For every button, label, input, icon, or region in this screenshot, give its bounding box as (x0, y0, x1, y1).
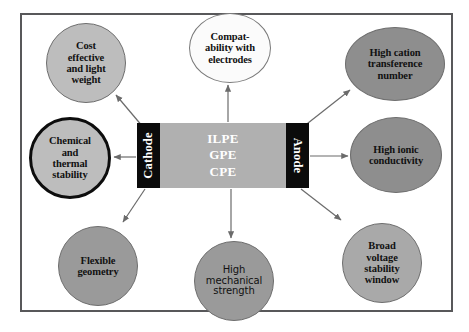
node-broad-voltage[interactable]: Broad voltage stability window (342, 223, 422, 303)
node-mech-strength-line3: strength (202, 286, 266, 297)
cell-block: Cathode ILPE GPE CPE Anode (137, 123, 309, 188)
node-ionic-conduct-line2: conductivity (365, 155, 427, 166)
electrolyte-membrane[interactable]: ILPE GPE CPE (160, 123, 286, 188)
node-ionic-conduct[interactable]: High ionic conductivity (350, 117, 442, 193)
node-broad-voltage-line2: voltage (360, 252, 403, 263)
node-broad-voltage-line1: Broad (360, 240, 403, 251)
node-broad-voltage-line3: stability (360, 263, 403, 274)
anode-block[interactable]: Anode (286, 123, 309, 188)
node-cost-effective-line4: weight (62, 74, 109, 85)
node-cost-effective-line2: effective (62, 52, 109, 63)
node-cost-effective-line3: and light (62, 63, 109, 74)
cathode-label: Cathode (141, 132, 156, 179)
node-cation-transfer-line1: High cation (364, 47, 427, 58)
node-ionic-conduct-line1: High ionic (365, 144, 427, 155)
node-flexible-geo-line1: Flexible (73, 255, 122, 266)
node-chemical-thermal-line2: and (45, 147, 95, 158)
node-compatability[interactable]: Compat- ability with electrodes (189, 13, 271, 83)
node-flexible-geo[interactable]: Flexible geometry (58, 226, 138, 306)
diagram-canvas: Cost effective and light weight Compat- … (0, 0, 469, 332)
node-broad-voltage-line4: window (360, 274, 403, 285)
membrane-line-ilpe: ILPE (207, 131, 239, 148)
node-cation-transfer-line2: transference (364, 58, 427, 69)
anode-label: Anode (290, 138, 305, 174)
node-cost-effective[interactable]: Cost effective and light weight (46, 23, 126, 103)
cathode-block[interactable]: Cathode (137, 123, 160, 188)
node-compatability-line2: ability with (201, 42, 259, 53)
node-compatability-line3: electrodes (201, 54, 259, 65)
node-mech-strength[interactable]: High mechanical strength (194, 241, 274, 321)
node-compatability-line1: Compat- (201, 31, 259, 42)
node-cost-effective-line1: Cost (62, 40, 109, 51)
node-chemical-thermal-line3: thermal (45, 158, 95, 169)
node-cation-transfer-line3: number (364, 70, 427, 81)
node-cation-transfer[interactable]: High cation transference number (345, 27, 445, 101)
node-chemical-thermal-line1: Chemical (45, 135, 95, 146)
node-mech-strength-line1: High (202, 265, 266, 276)
membrane-line-cpe: CPE (210, 164, 237, 181)
node-chemical-thermal[interactable]: Chemical and thermal stability (29, 117, 111, 199)
membrane-line-gpe: GPE (209, 147, 237, 164)
node-flexible-geo-line2: geometry (73, 266, 122, 277)
node-chemical-thermal-line4: stability (45, 169, 95, 180)
